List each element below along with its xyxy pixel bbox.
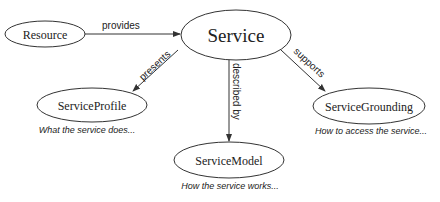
edge-label-presents: presents	[137, 48, 173, 82]
node-label-service: Service	[208, 25, 265, 46]
node-service-grounding: ServiceGrounding How to access the servi…	[313, 88, 427, 136]
edge-label-described-by: described by	[231, 63, 242, 120]
caption-service-profile: What the service does...	[39, 125, 136, 135]
node-service-profile: ServiceProfile What the service does...	[37, 88, 147, 135]
node-resource: Resource	[5, 21, 85, 47]
node-label-service-model: ServiceModel	[195, 154, 263, 168]
caption-service-grounding: How to access the service...	[315, 126, 427, 136]
edge-label-supports: supports	[292, 45, 328, 79]
edge-supports: supports	[281, 45, 327, 91]
node-service: Service	[181, 10, 291, 60]
caption-service-model: How the service works...	[181, 181, 279, 191]
node-label-resource: Resource	[23, 28, 68, 42]
edge-provides: provides	[85, 20, 180, 34]
edge-described-by: described by	[229, 60, 242, 141]
edge-label-provides: provides	[102, 20, 140, 31]
node-label-service-grounding: ServiceGrounding	[325, 100, 413, 114]
ontology-diagram: provides presents described by supports …	[0, 0, 440, 202]
edge-presents: presents	[133, 48, 178, 91]
node-service-model: ServiceModel How the service works...	[174, 142, 284, 191]
node-label-service-profile: ServiceProfile	[58, 99, 127, 113]
